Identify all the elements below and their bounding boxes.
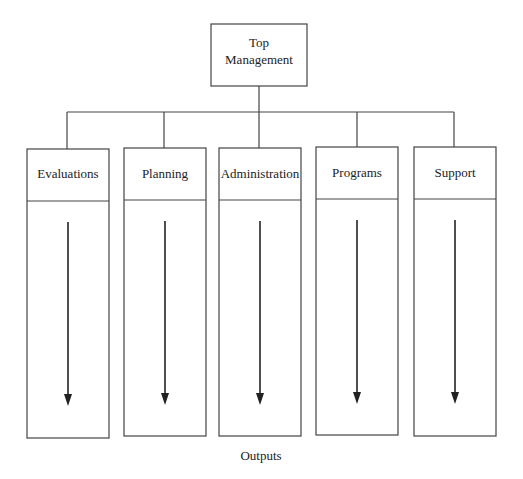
unit-label-programs: Programs <box>316 164 398 181</box>
unit-label-administration: Administration <box>219 165 301 182</box>
unit-label-evaluations: Evaluations <box>27 165 109 182</box>
top-label-line1: Top <box>211 34 307 51</box>
top-management-label: Top Management <box>211 34 307 68</box>
org-diagram-lines <box>0 0 523 479</box>
unit-label-support: Support <box>414 164 496 181</box>
top-label-line2: Management <box>211 51 307 68</box>
unit-label-planning: Planning <box>124 165 206 182</box>
outputs-label: Outputs <box>230 447 292 464</box>
